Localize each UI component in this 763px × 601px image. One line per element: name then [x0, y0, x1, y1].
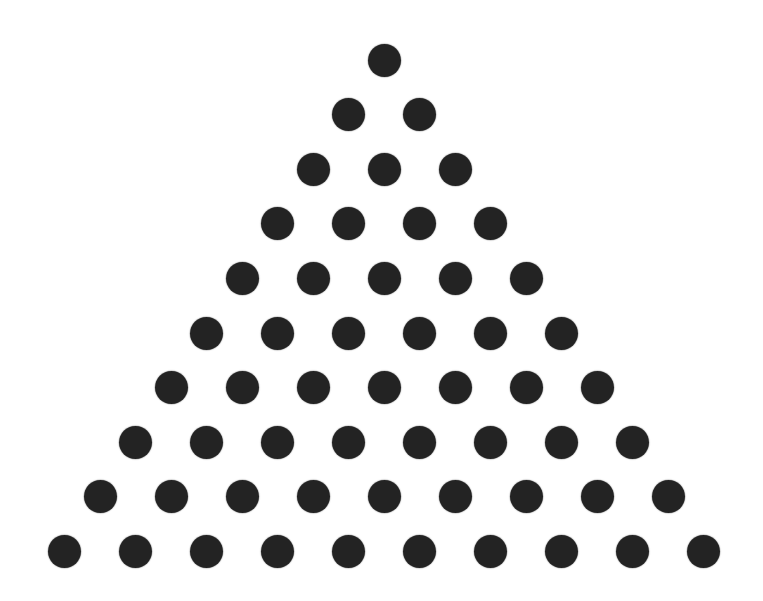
dot-row-10-col-4	[261, 535, 294, 568]
dot-row-2-col-2	[403, 98, 436, 131]
dot-row-8-col-4	[332, 426, 365, 459]
dot-row-7-col-4	[368, 371, 401, 404]
dot-row-6-col-1	[190, 317, 223, 350]
dot-row-5-col-3	[368, 262, 401, 295]
dot-row-10-col-10	[687, 535, 720, 568]
dot-row-6-col-5	[474, 317, 507, 350]
dot-row-7-col-3	[297, 371, 330, 404]
dot-row-7-col-1	[155, 371, 188, 404]
dot-row-4-col-4	[474, 207, 507, 240]
dot-row-1-col-1	[368, 44, 401, 77]
dot-row-8-col-6	[474, 426, 507, 459]
dot-row-9-col-6	[439, 480, 472, 513]
dot-row-9-col-2	[155, 480, 188, 513]
dot-row-5-col-4	[439, 262, 472, 295]
dot-row-8-col-5	[403, 426, 436, 459]
dot-row-10-col-1	[48, 535, 81, 568]
dot-row-3-col-3	[439, 153, 472, 186]
dot-row-8-col-2	[190, 426, 223, 459]
dot-row-7-col-6	[510, 371, 543, 404]
dot-row-7-col-7	[581, 371, 614, 404]
dot-row-6-col-6	[545, 317, 578, 350]
dot-row-10-col-3	[190, 535, 223, 568]
dot-row-8-col-7	[545, 426, 578, 459]
dot-row-9-col-3	[226, 480, 259, 513]
dot-row-9-col-9	[652, 480, 685, 513]
dot-row-5-col-5	[510, 262, 543, 295]
dot-row-4-col-3	[403, 207, 436, 240]
dot-row-2-col-1	[332, 98, 365, 131]
dot-row-9-col-4	[297, 480, 330, 513]
dot-row-10-col-5	[332, 535, 365, 568]
dot-row-10-col-2	[119, 535, 152, 568]
dot-row-10-col-6	[403, 535, 436, 568]
dot-row-9-col-1	[84, 480, 117, 513]
dot-row-3-col-1	[297, 153, 330, 186]
dot-row-6-col-4	[403, 317, 436, 350]
dot-row-3-col-2	[368, 153, 401, 186]
triangular-dot-diagram	[0, 0, 763, 601]
dot-row-10-col-9	[616, 535, 649, 568]
dot-row-5-col-2	[297, 262, 330, 295]
dot-row-9-col-5	[368, 480, 401, 513]
dot-row-4-col-1	[261, 207, 294, 240]
dot-row-5-col-1	[226, 262, 259, 295]
dot-row-6-col-3	[332, 317, 365, 350]
dot-row-9-col-7	[510, 480, 543, 513]
dot-row-7-col-5	[439, 371, 472, 404]
dot-row-8-col-8	[616, 426, 649, 459]
dot-row-8-col-1	[119, 426, 152, 459]
dot-row-4-col-2	[332, 207, 365, 240]
dot-row-10-col-7	[474, 535, 507, 568]
dot-row-6-col-2	[261, 317, 294, 350]
dot-row-9-col-8	[581, 480, 614, 513]
dot-row-8-col-3	[261, 426, 294, 459]
dot-row-10-col-8	[545, 535, 578, 568]
dot-row-7-col-2	[226, 371, 259, 404]
